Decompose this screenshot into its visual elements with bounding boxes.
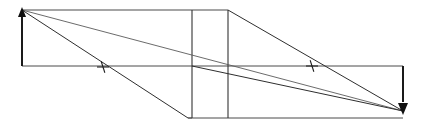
diagram-background — [0, 0, 421, 135]
optical-ray-diagram — [0, 0, 421, 135]
ray-diagram-canvas — [0, 0, 421, 135]
